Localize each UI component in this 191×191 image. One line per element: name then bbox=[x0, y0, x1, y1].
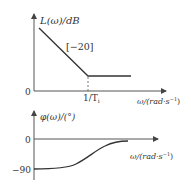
magnitude-x-label: ω/(rad·s−1) bbox=[137, 96, 180, 106]
phase-zero-label: 0 bbox=[25, 135, 31, 145]
bode-diagram: L(ω)/dB [−20] 0 1/Ti ω/(rad·s−1) φ(ω)/(°… bbox=[0, 0, 191, 191]
phase-plot: φ(ω)/(°) 0 −90 ω/(rad·s−1) bbox=[12, 111, 173, 180]
magnitude-y-label: L(ω)/dB bbox=[39, 15, 80, 26]
phase-x-label: ω/(rad·s−1) bbox=[130, 151, 173, 161]
phase-neg90-label: −90 bbox=[12, 165, 31, 175]
magnitude-asymptote-curve bbox=[39, 28, 131, 76]
phase-curve bbox=[34, 141, 128, 169]
phase-y-label: φ(ω)/(°) bbox=[40, 112, 76, 122]
magnitude-origin-label: 0 bbox=[25, 87, 31, 97]
corner-frequency-label: 1/Ti bbox=[83, 93, 100, 104]
magnitude-plot: L(ω)/dB [−20] 0 1/Ti ω/(rad·s−1) bbox=[25, 14, 180, 106]
slope-label: [−20] bbox=[66, 41, 93, 52]
